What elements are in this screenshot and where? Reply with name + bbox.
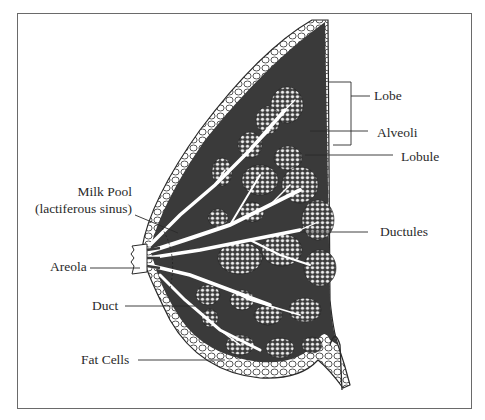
label-duct: Duct [92,298,118,313]
label-lobule: Lobule [401,149,439,164]
label-fat-cells: Fat Cells [81,352,129,367]
label-lobe: Lobe [374,88,402,103]
label-alveoli: Alveoli [377,125,418,140]
nipple [131,244,147,274]
label-ductules: Ductules [380,224,428,239]
label-areola: Areola [50,259,87,274]
label-milk-pool: Milk Pool [20,184,132,199]
label-milk-pool-sub: (lactiferous sinus) [20,201,132,216]
